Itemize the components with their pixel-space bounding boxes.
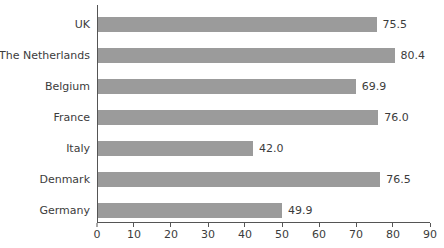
bar	[98, 110, 378, 125]
x-tick: 90	[423, 223, 437, 240]
tick-label: 10	[127, 229, 141, 240]
x-tick: 60	[312, 223, 326, 240]
category-label: The Netherlands	[0, 50, 90, 61]
bar-row: France76.0	[98, 110, 430, 125]
bar	[98, 17, 377, 32]
category-label: Denmark	[39, 174, 90, 185]
tick-mark	[133, 223, 134, 227]
bars-container: UK75.5The Netherlands80.4Belgium69.9Fran…	[98, 5, 430, 222]
bar	[98, 79, 356, 94]
value-label: 69.9	[362, 81, 387, 92]
tick-label: 0	[94, 229, 101, 240]
bar-row: UK75.5	[98, 17, 430, 32]
bar-row: Germany49.9	[98, 203, 430, 218]
x-tick: 40	[238, 223, 252, 240]
value-label: 75.5	[383, 19, 408, 30]
tick-mark	[392, 223, 393, 227]
bar	[98, 141, 253, 156]
category-label: Belgium	[45, 81, 90, 92]
bar-row: Italy42.0	[98, 141, 430, 156]
x-axis: 0102030405060708090	[97, 222, 430, 246]
x-tick: 80	[386, 223, 400, 240]
bar-row: Denmark76.5	[98, 172, 430, 187]
tick-mark	[356, 223, 357, 227]
tick-mark	[282, 223, 283, 227]
tick-label: 60	[312, 229, 326, 240]
bar-row: Belgium69.9	[98, 79, 430, 94]
tick-mark	[319, 223, 320, 227]
tick-label: 40	[238, 229, 252, 240]
x-tick: 70	[349, 223, 363, 240]
tick-label: 50	[275, 229, 289, 240]
bar	[98, 203, 282, 218]
tick-label: 80	[386, 229, 400, 240]
value-label: 49.9	[288, 205, 313, 216]
tick-label: 90	[423, 229, 437, 240]
bar-row: The Netherlands80.4	[98, 48, 430, 63]
tick-mark	[430, 223, 431, 227]
bar	[98, 48, 395, 63]
x-tick: 20	[164, 223, 178, 240]
category-label: Germany	[39, 205, 90, 216]
value-label: 80.4	[401, 50, 426, 61]
tick-mark	[208, 223, 209, 227]
tick-mark	[97, 223, 98, 227]
tick-mark	[244, 223, 245, 227]
tick-label: 30	[201, 229, 215, 240]
plot-area: UK75.5The Netherlands80.4Belgium69.9Fran…	[97, 5, 430, 222]
tick-mark	[170, 223, 171, 227]
value-label: 42.0	[259, 143, 284, 154]
x-tick: 30	[201, 223, 215, 240]
bar-chart: UK75.5The Netherlands80.4Belgium69.9Fran…	[0, 0, 444, 248]
x-tick: 0	[94, 223, 101, 240]
tick-label: 20	[164, 229, 178, 240]
bar	[98, 172, 380, 187]
x-tick: 50	[275, 223, 289, 240]
category-label: France	[53, 112, 90, 123]
value-label: 76.0	[384, 112, 409, 123]
category-label: UK	[75, 19, 90, 30]
x-tick: 10	[127, 223, 141, 240]
category-label: Italy	[66, 143, 90, 154]
value-label: 76.5	[386, 174, 411, 185]
tick-label: 70	[349, 229, 363, 240]
